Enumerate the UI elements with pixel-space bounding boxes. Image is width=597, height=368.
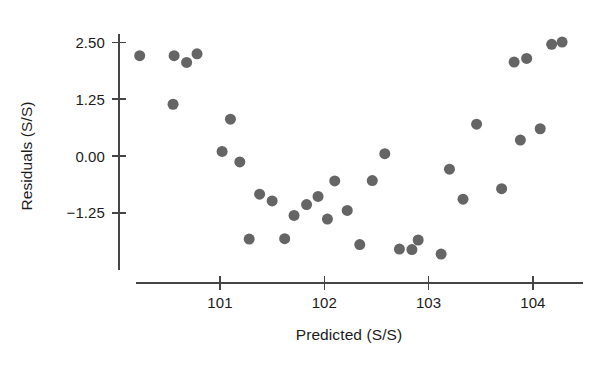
data-points [134, 37, 567, 260]
data-point [471, 119, 482, 130]
data-point [509, 57, 520, 68]
data-point [254, 189, 265, 200]
data-point [217, 146, 228, 157]
data-point [413, 234, 424, 245]
x-axis [136, 276, 583, 290]
data-point [406, 244, 417, 255]
data-point [546, 39, 557, 50]
x-tick-label: 102 [312, 294, 337, 311]
data-point [458, 194, 469, 205]
data-point [496, 183, 507, 194]
data-point [301, 199, 312, 210]
x-tick-label: 104 [520, 294, 545, 311]
data-point [192, 48, 203, 59]
data-point [436, 249, 447, 260]
data-point [521, 53, 532, 64]
x-axis-title: Predicted (S/S) [296, 326, 403, 343]
data-point [169, 50, 180, 61]
data-point [535, 123, 546, 134]
data-point [234, 156, 245, 167]
data-point [354, 239, 365, 250]
x-tick-labels: 101102103104 [207, 294, 545, 311]
data-point [168, 99, 179, 110]
data-point [367, 175, 378, 186]
data-point [557, 37, 568, 48]
data-point [267, 195, 278, 206]
y-tick-label: 1.25 [75, 91, 105, 108]
y-axis-title: Residuals (S/S) [18, 101, 35, 210]
y-axis [112, 34, 126, 270]
y-tick-label: −1.25 [67, 204, 105, 221]
data-point [289, 210, 300, 221]
scatter-plot-figure: 2.501.250.00−1.25 101102103104 Residuals… [0, 0, 597, 368]
data-point [134, 50, 145, 61]
data-point [342, 205, 353, 216]
y-tick-label: 2.50 [75, 34, 105, 51]
data-point [279, 233, 290, 244]
data-point [329, 175, 340, 186]
data-point [379, 148, 390, 159]
y-tick-label: 0.00 [75, 148, 105, 165]
x-tick-label: 101 [207, 294, 232, 311]
data-point [244, 234, 255, 245]
data-point [394, 244, 405, 255]
plot-canvas: 2.501.250.00−1.25 101102103104 Residuals… [0, 0, 597, 368]
data-point [181, 57, 192, 68]
data-point [444, 164, 455, 175]
data-point [515, 135, 526, 146]
data-point [225, 114, 236, 125]
data-point [322, 214, 333, 225]
x-tick-label: 103 [416, 294, 441, 311]
data-point [313, 191, 324, 202]
y-tick-labels: 2.501.250.00−1.25 [67, 34, 105, 221]
